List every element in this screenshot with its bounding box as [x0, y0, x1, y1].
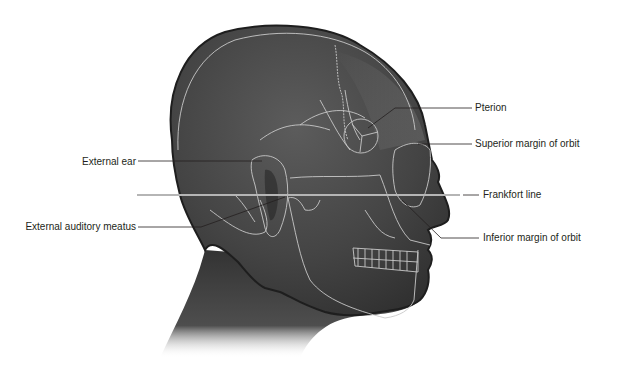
label-frankfort-line: Frankfort line [483, 189, 541, 201]
head-illustration [0, 0, 617, 375]
label-superior-margin-of-orbit: Superior margin of orbit [475, 138, 580, 150]
label-external-auditory-meatus: External auditory meatus [10, 221, 136, 233]
label-pterion: Pterion [475, 102, 507, 114]
head-anatomy-figure: External ear External auditory meatus Pt… [0, 0, 617, 375]
label-inferior-margin-of-orbit: Inferior margin of orbit [483, 232, 581, 244]
label-external-ear: External ear [48, 156, 136, 168]
